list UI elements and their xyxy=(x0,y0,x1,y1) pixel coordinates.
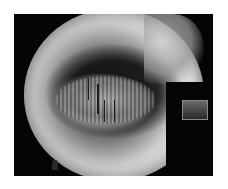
tree-trunk xyxy=(114,100,115,122)
sky-highlight xyxy=(144,14,204,84)
tree-trunk xyxy=(104,100,105,122)
dark-corner xyxy=(166,82,213,176)
person-silhouette xyxy=(52,160,58,170)
tree-canopy xyxy=(56,76,156,124)
building-structure xyxy=(182,100,208,120)
photo-frame xyxy=(14,14,213,176)
tree-trunk xyxy=(88,78,89,100)
tree-trunk xyxy=(97,84,99,114)
